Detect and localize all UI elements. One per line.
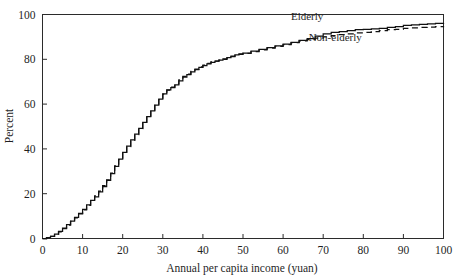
- x-tick-labels: 0102030405060708090100: [40, 244, 453, 256]
- chart-canvas: 0102030405060708090100 020406080100 Elde…: [0, 0, 454, 277]
- plot-border: [43, 15, 444, 239]
- x-tick-label: 30: [157, 244, 169, 256]
- y-axis-ticks: [43, 59, 48, 193]
- x-tick-label: 40: [197, 244, 209, 256]
- series-annotation-non-elderly: Non-elderly: [309, 31, 363, 43]
- x-axis-ticks: [43, 234, 444, 239]
- series-annotation-elderly: Elderly: [291, 10, 324, 22]
- y-tick-label: 20: [24, 188, 36, 200]
- x-tick-label: 100: [435, 244, 453, 256]
- y-tick-label: 0: [30, 233, 36, 245]
- series-curves: [43, 23, 444, 238]
- y-tick-labels: 020406080100: [18, 9, 36, 245]
- y-axis-title: Percent: [3, 108, 15, 143]
- x-axis-title: Annual per capita income (yuan): [166, 262, 318, 275]
- x-tick-label: 90: [398, 244, 410, 256]
- y-tick-label: 100: [18, 9, 36, 21]
- series-line-elderly: [43, 23, 444, 238]
- x-tick-label: 60: [277, 244, 289, 256]
- x-tick-label: 70: [317, 244, 329, 256]
- x-tick-label: 0: [40, 244, 46, 256]
- plot-frame: [43, 15, 444, 239]
- y-tick-label: 60: [24, 98, 36, 110]
- series-line-non-elderly: [43, 26, 444, 238]
- series-annotations: ElderlyNon-elderly: [291, 10, 362, 43]
- chart-figure: 0102030405060708090100 020406080100 Elde…: [0, 0, 454, 277]
- x-tick-label: 20: [117, 244, 129, 256]
- y-tick-label: 40: [24, 143, 36, 155]
- x-tick-label: 50: [237, 244, 249, 256]
- x-tick-label: 10: [77, 244, 89, 256]
- y-tick-label: 80: [24, 53, 36, 65]
- x-tick-label: 80: [358, 244, 370, 256]
